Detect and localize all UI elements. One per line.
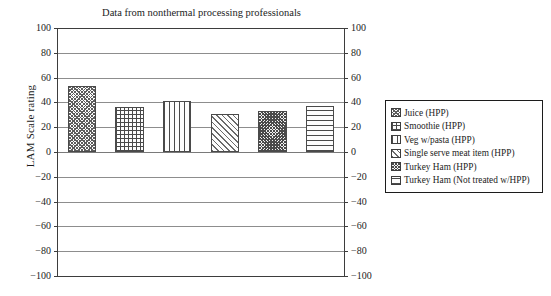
y-axis-tick-label-left--40: −40 bbox=[35, 197, 51, 207]
y-tick-right-20 bbox=[344, 127, 348, 128]
y-axis-tick-label-left--80: −80 bbox=[35, 246, 51, 256]
y-tick-right--80 bbox=[344, 251, 348, 252]
y-tick-right--40 bbox=[344, 202, 348, 203]
y-axis-tick-label-left-40: 40 bbox=[41, 97, 51, 107]
legend-item-2[interactable]: Smoothie (HPP) bbox=[391, 120, 537, 134]
y-axis-tick-label-right-0: 0 bbox=[351, 147, 356, 157]
y-axis-tick-label-right--60: −60 bbox=[351, 221, 367, 231]
legend-swatch-dense-icon bbox=[391, 162, 401, 171]
y-axis-tick-label-right-40: 40 bbox=[351, 97, 361, 107]
y-axis-tick-label-left-80: 80 bbox=[41, 48, 51, 58]
y-axis-tick-label-right-100: 100 bbox=[351, 23, 366, 33]
y-axis-tick-label-right--40: −40 bbox=[351, 197, 367, 207]
y-axis-tick-label-left--20: −20 bbox=[35, 172, 51, 182]
y-tick-right-100 bbox=[344, 28, 348, 29]
y-axis-tick-label-left-0: 0 bbox=[46, 147, 51, 157]
y-tick-right-0 bbox=[344, 152, 348, 153]
legend-swatch-dots-icon bbox=[391, 108, 401, 117]
bar-4 bbox=[211, 114, 240, 152]
legend-item-5[interactable]: Turkey Ham (HPP) bbox=[391, 160, 537, 174]
y-tick-right--100 bbox=[344, 276, 348, 277]
bar-1 bbox=[68, 86, 97, 152]
chart-legend: Juice (HPP)Smoothie (HPP)Veg w/pasta (HP… bbox=[385, 100, 543, 193]
y-axis-tick-label-right-20: 20 bbox=[351, 122, 361, 132]
bar-6 bbox=[306, 106, 335, 152]
y-axis-tick-label-right-60: 60 bbox=[351, 73, 361, 83]
y-axis-tick-label-left-60: 60 bbox=[41, 73, 51, 83]
legend-swatch-grid-icon bbox=[391, 122, 401, 131]
chart-title: Data from nonthermal processing professi… bbox=[57, 6, 346, 19]
bar-series bbox=[58, 28, 344, 276]
plot-area: 100100808060604040202000−20−20−40−40−60−… bbox=[57, 28, 345, 276]
legend-swatch-vert-icon bbox=[391, 135, 401, 144]
y-axis-label: LAM Scale rating bbox=[24, 46, 36, 206]
chart-figure: Data from nonthermal processing professi… bbox=[0, 0, 551, 296]
y-tick-right-40 bbox=[344, 102, 348, 103]
legend-item-1[interactable]: Juice (HPP) bbox=[391, 106, 537, 120]
legend-label: Turkey Ham (HPP) bbox=[404, 162, 477, 172]
legend-swatch-horiz-icon bbox=[391, 176, 401, 185]
y-axis-tick-label-right--100: −100 bbox=[351, 271, 372, 281]
legend-label: Juice (HPP) bbox=[404, 108, 449, 118]
y-axis-tick-label-left-20: 20 bbox=[41, 122, 51, 132]
y-axis-tick-label-left--60: −60 bbox=[35, 221, 51, 231]
legend-item-3[interactable]: Veg w/pasta (HPP) bbox=[391, 133, 537, 147]
y-tick-right-80 bbox=[344, 53, 348, 54]
legend-label: Single serve meat item (HPP) bbox=[404, 148, 515, 158]
legend-label: Turkey Ham (Not treated w/HPP) bbox=[404, 175, 530, 185]
legend-label: Smoothie (HPP) bbox=[404, 121, 465, 131]
legend-label: Veg w/pasta (HPP) bbox=[404, 135, 475, 145]
legend-item-6[interactable]: Turkey Ham (Not treated w/HPP) bbox=[391, 174, 537, 188]
bar-3 bbox=[163, 101, 192, 152]
bar-2 bbox=[115, 107, 144, 152]
y-axis-tick-label-right--80: −80 bbox=[351, 246, 367, 256]
legend-swatch-diag-icon bbox=[391, 149, 401, 158]
y-tick-right--60 bbox=[344, 226, 348, 227]
y-tick-left--100 bbox=[54, 276, 58, 277]
y-axis-tick-label-right--20: −20 bbox=[351, 172, 367, 182]
y-axis-tick-label-left--100: −100 bbox=[30, 271, 51, 281]
y-axis-tick-label-left-100: 100 bbox=[36, 23, 51, 33]
y-tick-right-60 bbox=[344, 78, 348, 79]
y-tick-right--20 bbox=[344, 177, 348, 178]
legend-item-4[interactable]: Single serve meat item (HPP) bbox=[391, 147, 537, 161]
y-axis-tick-label-right-80: 80 bbox=[351, 48, 361, 58]
gridline--100 bbox=[58, 276, 344, 277]
bar-5 bbox=[258, 111, 287, 152]
